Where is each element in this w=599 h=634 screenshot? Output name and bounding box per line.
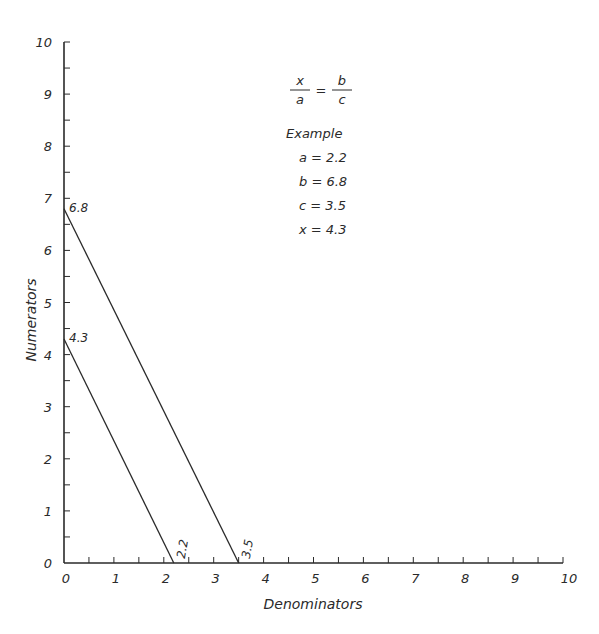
x-tick-label: 1 xyxy=(112,571,120,586)
example-line: a = 2.2 xyxy=(299,150,347,165)
y-tick-label: 7 xyxy=(44,191,53,206)
ticks: 012345678910012345678910 xyxy=(35,35,577,586)
example-line: x = 4.3 xyxy=(298,222,347,237)
formula-legend: xa=bcExamplea = 2.2b = 6.8c = 3.5x = 4.3 xyxy=(286,73,352,237)
formula-rhs-numerator: b xyxy=(338,73,346,88)
x-intercept-label: 2.2 xyxy=(174,538,191,559)
y-tick-label: 4 xyxy=(44,348,52,363)
x-tick-label: 0 xyxy=(62,571,70,586)
y-tick-label: 3 xyxy=(44,400,52,415)
y-tick-label: 2 xyxy=(44,452,52,467)
x-tick-label: 8 xyxy=(461,571,469,586)
series-line xyxy=(64,339,174,563)
y-axis-label: Numerators xyxy=(23,278,39,361)
x-tick-label: 7 xyxy=(411,571,420,586)
x-tick-label: 2 xyxy=(162,571,170,586)
x-tick-label: 10 xyxy=(561,571,578,586)
nomogram-chart: 012345678910012345678910 6.83.54.32.2 xa… xyxy=(0,0,599,634)
y-tick-label: 0 xyxy=(44,556,52,571)
formula-rhs-denominator: c xyxy=(338,92,345,107)
y-tick-label: 8 xyxy=(44,139,52,154)
x-tick-label: 4 xyxy=(261,571,269,586)
y-tick-label: 1 xyxy=(44,504,52,519)
x-tick-label: 9 xyxy=(511,571,519,586)
formula-lhs-denominator: a xyxy=(296,92,304,107)
x-axis-label: Denominators xyxy=(264,596,363,612)
y-tick-label: 9 xyxy=(44,87,52,102)
x-tick-label: 6 xyxy=(361,571,369,586)
x-intercept-label: 3.5 xyxy=(239,538,256,559)
y-intercept-label: 6.8 xyxy=(69,201,88,215)
y-intercept-label: 4.3 xyxy=(69,331,88,345)
example-line: c = 3.5 xyxy=(299,198,346,213)
axes xyxy=(64,42,563,563)
series-line xyxy=(64,209,239,563)
example-line: b = 6.8 xyxy=(299,174,347,189)
example-title: Example xyxy=(286,126,342,141)
formula-lhs-numerator: x xyxy=(295,73,304,88)
formula-equals: = xyxy=(316,83,327,98)
y-tick-label: 6 xyxy=(44,243,52,258)
x-tick-label: 3 xyxy=(212,571,220,586)
y-tick-label: 10 xyxy=(35,35,52,50)
y-tick-label: 5 xyxy=(44,296,52,311)
series-lines: 6.83.54.32.2 xyxy=(64,201,256,563)
x-tick-label: 5 xyxy=(311,571,319,586)
